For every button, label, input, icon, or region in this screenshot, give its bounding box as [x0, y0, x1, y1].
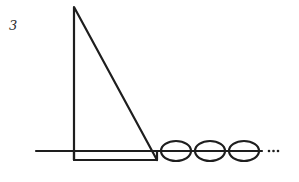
sail-chain-diagram	[0, 0, 299, 182]
base-strip	[74, 151, 157, 160]
triangle-shape	[74, 7, 157, 160]
continuation-dots	[268, 150, 280, 153]
